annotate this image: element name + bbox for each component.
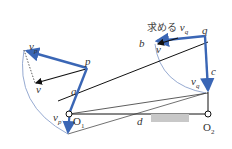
line-o1-to-c: [69, 93, 208, 114]
linkage-diagram: [0, 0, 232, 149]
label-vp-top: vp: [29, 41, 37, 55]
vq-arrow: [157, 36, 205, 41]
v-left-arrow: [36, 69, 86, 83]
label-o1: O1: [73, 116, 84, 130]
label-p: p: [85, 56, 91, 67]
label-goal: 求める vq: [147, 22, 188, 36]
label-v-right: v: [156, 44, 161, 55]
label-o2: O2: [203, 122, 214, 136]
label-d: d: [137, 116, 143, 127]
link-c: [205, 36, 208, 90]
joint-o2: [205, 111, 211, 117]
label-vq: vq: [191, 76, 199, 90]
label-b: b: [139, 38, 145, 49]
coupler-line: [58, 42, 208, 101]
label-v-left: v: [36, 84, 41, 95]
ground-block: [151, 114, 189, 122]
label-c: c: [211, 66, 216, 77]
label-q: q: [202, 25, 208, 36]
label-vp-bottom: vp: [53, 112, 61, 126]
label-a: a: [71, 86, 77, 97]
joint-o1: [66, 111, 72, 117]
